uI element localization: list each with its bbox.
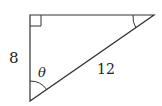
top-right-angle-arc [133, 15, 136, 28]
theta-angle-arc [30, 81, 47, 90]
angle-label-theta: θ [38, 65, 46, 80]
side-label-8: 8 [9, 49, 19, 67]
hypotenuse-label-12: 12 [97, 61, 115, 77]
right-angle-marker [30, 15, 41, 26]
triangle-diagram: 8 θ 12 [0, 0, 162, 106]
